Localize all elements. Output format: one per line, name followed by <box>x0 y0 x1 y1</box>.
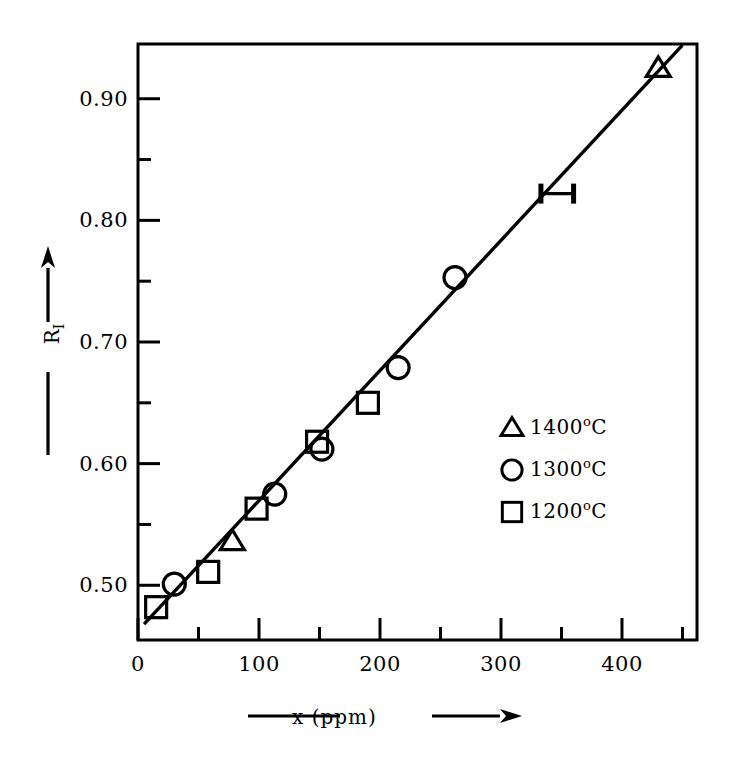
legend-entry-label: 1200oC <box>530 499 607 523</box>
legend-marker-glyphs <box>501 417 523 521</box>
legend-unit: C <box>591 457 607 481</box>
circle-data-marker <box>444 267 466 289</box>
x-axis-minor-ticks <box>198 627 682 640</box>
y-tick-label: 0.50 <box>46 573 128 597</box>
horizontal-error-bar <box>541 184 574 204</box>
legend-temperature-value: 1400 <box>530 415 583 439</box>
square-data-marker <box>146 597 167 618</box>
degree-symbol: o <box>583 456 591 471</box>
y-axis-title-subscript: I <box>51 324 67 330</box>
legend-triangle-marker <box>501 417 523 435</box>
fit-line-segment <box>144 45 682 624</box>
legend-temperature-value: 1200 <box>530 499 583 523</box>
x-axis-title: x (ppm) <box>292 705 377 729</box>
legend-entry-label: 1300oC <box>530 457 607 481</box>
circle-data-marker <box>387 357 409 379</box>
y-axis-title: RI <box>40 314 64 354</box>
y-axis-major-ticks <box>138 99 160 586</box>
x-tick-label: 400 <box>601 652 643 676</box>
chart-figure: 0.500.600.700.800.90 0100200300400 x (pp… <box>0 0 731 765</box>
legend-entry-label: 1400oC <box>530 415 607 439</box>
legend-circle-marker <box>502 460 522 480</box>
legend-unit: C <box>591 499 607 523</box>
degree-symbol: o <box>583 498 591 513</box>
square-data-marker <box>357 392 378 413</box>
x-tick-label: 0 <box>131 652 145 676</box>
y-tick-label: 0.80 <box>46 208 128 232</box>
circle-data-marker <box>311 438 333 460</box>
x-tick-label: 300 <box>480 652 522 676</box>
linear-fit-line <box>144 45 682 624</box>
legend-temperature-value: 1300 <box>530 457 583 481</box>
y-tick-label: 0.90 <box>46 87 128 111</box>
x-tick-label: 200 <box>359 652 401 676</box>
x-axis-major-ticks <box>138 618 622 640</box>
y-title-arrowhead <box>41 246 55 268</box>
legend-square-marker <box>502 502 521 521</box>
x-tick-label: 100 <box>238 652 280 676</box>
y-tick-label: 0.60 <box>46 452 128 476</box>
x-axis-title-text: x (ppm) <box>292 705 377 729</box>
degree-symbol: o <box>583 414 591 429</box>
scatter-plot-canvas <box>0 0 731 765</box>
legend-unit: C <box>591 415 607 439</box>
y-axis-title-main: R <box>40 329 64 344</box>
x-title-arrowhead <box>500 709 522 723</box>
